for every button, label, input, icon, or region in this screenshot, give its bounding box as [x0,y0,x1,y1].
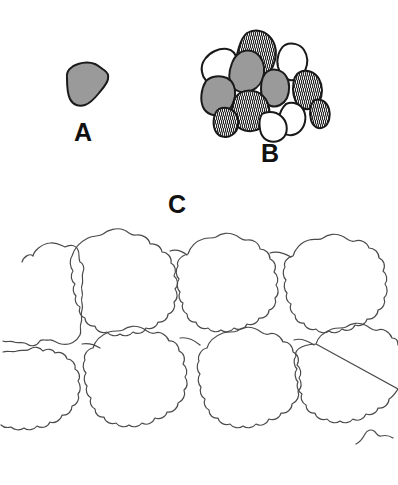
cell-b-9 [310,99,330,128]
cell-b-11 [260,112,287,142]
panel-label-c: C [168,192,187,217]
figure-root: A B C [0,0,398,485]
background [0,0,398,485]
cell-b-12 [214,108,239,137]
panel-label-a: A [74,120,93,145]
figure-canvas [0,0,398,485]
panel-label-b: B [261,141,280,166]
